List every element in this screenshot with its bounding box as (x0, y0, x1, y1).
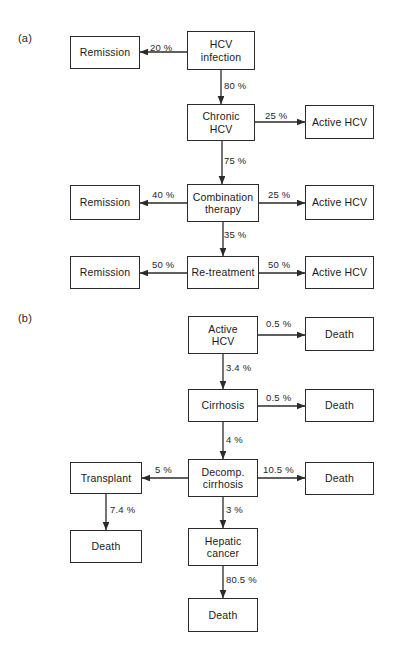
node-b-hepatic: Hepatic cancer (188, 528, 258, 566)
edge-label-a-e1: 20 % (150, 42, 172, 53)
node-a-combination: Combination therapy (187, 184, 259, 222)
edge-label-b-e3: 0.5 % (266, 392, 291, 403)
edge-label-a-e8: 50 % (152, 259, 174, 270)
hcv-progression-diagram: (a) (b) RemissionHCV infectionChronic HC… (0, 0, 395, 657)
node-a-active-hcv-2: Active HCV (305, 185, 374, 220)
node-b-death-5: Death (188, 598, 258, 632)
node-b-death-2: Death (305, 389, 374, 422)
edge-label-b-e1: 0.5 % (266, 318, 291, 329)
edge-label-a-e7: 35 % (224, 229, 246, 240)
edge-label-b-e2: 3.4 % (226, 362, 251, 373)
node-a-chronic-hcv: Chronic HCV (187, 104, 255, 141)
node-b-transplant: Transplant (70, 462, 142, 494)
edge-label-b-e9: 80.5 % (226, 574, 257, 585)
node-a-retreatment: Re-treatment (187, 256, 259, 289)
node-b-death-3: Death (305, 462, 374, 495)
edge-label-b-e5: 5 % (155, 464, 172, 475)
node-a-remission-3: Remission (70, 256, 140, 289)
node-a-remission-2: Remission (70, 185, 140, 220)
node-b-death-1: Death (305, 317, 374, 351)
node-b-death-4: Death (70, 530, 142, 563)
panel-label-a: (a) (18, 32, 32, 44)
edge-label-b-e8: 3 % (226, 504, 243, 515)
panel-label-b: (b) (18, 312, 32, 324)
edge-label-b-e6: 10.5 % (263, 464, 294, 475)
edge-label-a-e3: 25 % (265, 110, 287, 121)
node-b-active-hcv: Active HCV (188, 316, 258, 354)
edge-label-a-e4: 75 % (224, 155, 246, 166)
node-a-active-hcv-1: Active HCV (305, 105, 374, 139)
edge-label-a-e2: 80 % (224, 80, 246, 91)
node-a-active-hcv-3: Active HCV (305, 256, 374, 289)
edge-label-b-e7: 7.4 % (110, 504, 135, 515)
node-b-cirrhosis: Cirrhosis (188, 389, 258, 422)
edge-label-b-e4: 4 % (226, 434, 243, 445)
edge-label-a-e6: 25 % (268, 189, 290, 200)
edge-label-a-e5: 40 % (152, 189, 174, 200)
node-a-hcv-infection: HCV infection (187, 31, 255, 70)
node-b-decomp: Decomp. cirrhosis (188, 459, 258, 497)
edge-label-a-e9: 50 % (268, 259, 290, 270)
node-a-remission-1: Remission (70, 36, 140, 69)
